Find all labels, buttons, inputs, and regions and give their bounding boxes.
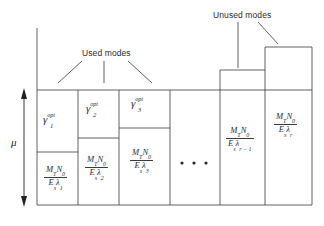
noise-fraction-r-minus-1: MTN0 Esλr − 1 bbox=[226, 126, 254, 151]
gamma-opt-3: γopt3 bbox=[131, 97, 146, 111]
used-modes-leader-left bbox=[58, 61, 82, 83]
noise-fraction-r: MTN0 Esλr bbox=[274, 112, 297, 137]
noise-fraction-1: MTN0 Esλ1 bbox=[44, 165, 67, 190]
unused-modes-leader-right bbox=[258, 22, 278, 44]
used-modes-label: Used modes bbox=[82, 48, 131, 58]
noise-fraction-2: MTN0 Esλ2 bbox=[85, 155, 108, 180]
mu-level-label: μ bbox=[11, 136, 17, 148]
ellipsis-dots bbox=[180, 161, 207, 164]
mu-measure-arrow bbox=[21, 88, 27, 207]
gamma-opt-1: γopt1 bbox=[43, 113, 58, 127]
unused-modes-label: Unused modes bbox=[213, 10, 271, 20]
noise-fraction-3: MTN0 Esλ3 bbox=[130, 148, 153, 173]
used-modes-leader-right bbox=[128, 61, 152, 83]
gamma-opt-2: γopt2 bbox=[86, 102, 101, 116]
